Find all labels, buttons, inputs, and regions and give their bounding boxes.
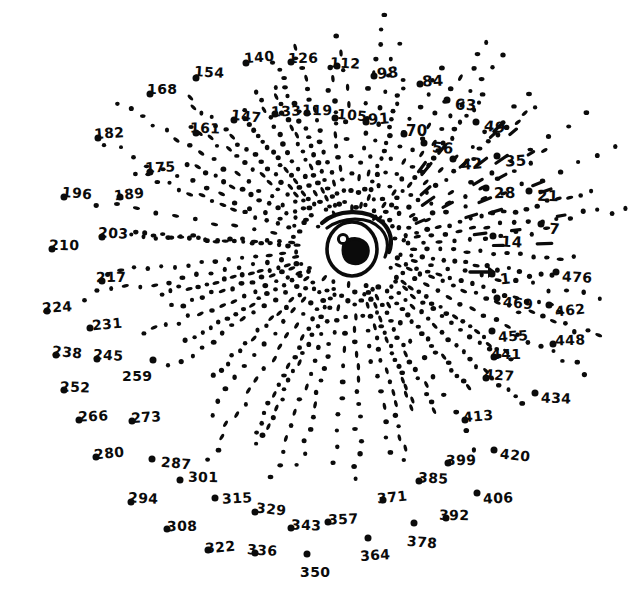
ray-dot — [205, 457, 210, 461]
numbered-dot — [546, 302, 553, 309]
ray-dot — [376, 347, 381, 352]
ray-dot — [313, 359, 318, 363]
ray-dot — [210, 199, 214, 203]
ray-dot — [312, 287, 316, 292]
ray-dot — [368, 314, 374, 319]
ray-dot — [190, 178, 195, 183]
ray-dot — [439, 127, 444, 131]
ray-dot — [240, 187, 246, 192]
numbered-dot — [365, 535, 372, 542]
ray-dot — [278, 163, 283, 167]
ray-dot — [578, 193, 583, 197]
ray-dot — [186, 264, 190, 268]
numbered-dot — [494, 295, 501, 302]
ray-dot — [440, 330, 445, 335]
ray-dot — [142, 234, 146, 239]
numbered-dot — [304, 551, 311, 558]
ray-dot — [316, 160, 322, 165]
ray-dot — [388, 379, 392, 384]
dot-number-label: 7 — [548, 222, 560, 238]
dot-number-label: 378 — [406, 534, 438, 551]
ray-dot — [375, 336, 379, 341]
ray-dot — [424, 227, 430, 232]
ray-dot — [251, 128, 256, 133]
ray-dot — [291, 369, 295, 374]
ray-dot — [324, 208, 329, 212]
ray-dot — [94, 203, 99, 208]
dot-number-label: 336 — [247, 542, 278, 558]
ray-dot — [582, 290, 586, 295]
ray-dot — [416, 376, 420, 380]
ray-dot — [433, 351, 438, 355]
ray-dot — [262, 283, 268, 288]
ray-dot — [474, 364, 478, 369]
ray-dot — [204, 186, 210, 191]
ray-dot — [498, 221, 502, 226]
numbered-dot — [526, 188, 533, 195]
dot-number-label: 448 — [555, 332, 586, 347]
ray-dot — [481, 285, 485, 289]
ray-dot — [241, 307, 246, 311]
dot-number-label: 14 — [501, 234, 523, 250]
ray-dot — [275, 205, 280, 210]
ray-dot — [394, 302, 399, 306]
ray-dot — [384, 141, 388, 145]
ray-dot — [483, 236, 488, 241]
ray-dot — [441, 393, 446, 397]
dot-number-label: 140 — [243, 49, 275, 66]
dot-number-label: 434 — [541, 390, 572, 405]
ray-dot — [183, 338, 188, 343]
ray-dot — [252, 227, 256, 231]
dot-number-label: 371 — [376, 488, 408, 505]
ray-dot — [244, 147, 249, 152]
ray-dot — [412, 175, 417, 180]
ray-dot — [335, 155, 341, 160]
ray-dot — [399, 176, 404, 181]
ray-dash — [512, 230, 521, 231]
ray-dot — [332, 293, 336, 298]
ray-dot — [394, 196, 399, 201]
ray-dot — [279, 269, 285, 274]
ray-dot — [168, 288, 172, 293]
ray-dot — [254, 89, 258, 94]
ray-dot — [190, 233, 196, 237]
ray-dot — [345, 298, 350, 303]
ray-dot — [422, 355, 427, 360]
ray-dot — [259, 275, 265, 280]
dot-number-label: 21 — [537, 189, 559, 204]
ray-dot — [443, 232, 448, 237]
ray-dot — [373, 57, 378, 62]
ray-dot — [129, 106, 134, 111]
ray-dot — [303, 286, 308, 290]
ray-dot — [340, 380, 346, 385]
ray-dot — [401, 343, 406, 347]
ray-dot — [364, 283, 369, 288]
ray-dot — [293, 199, 298, 203]
ray-dot — [203, 237, 207, 242]
ray-dot — [353, 205, 359, 210]
ray-dot — [438, 247, 442, 252]
ray-dot — [375, 172, 380, 177]
ray-dot — [192, 335, 196, 339]
ray-dot — [199, 110, 203, 115]
ray-dot — [342, 331, 348, 336]
ray-dot — [252, 353, 256, 357]
ray-dot — [224, 127, 229, 131]
dot-number-label: 441 — [491, 347, 521, 361]
ray-dot — [333, 34, 339, 39]
ray-dot — [259, 98, 264, 103]
ray-dot — [335, 444, 339, 449]
ray-dot — [301, 149, 306, 153]
ray-dot — [333, 330, 337, 335]
ray-dot — [416, 198, 421, 203]
numbered-dot — [411, 520, 418, 527]
ray-dot — [195, 285, 200, 289]
ray-dot — [256, 189, 261, 193]
ray-dot — [281, 76, 287, 80]
ray-dot — [180, 304, 186, 309]
ray-dot — [378, 42, 383, 47]
ray-dot — [397, 144, 402, 148]
ray-dot — [281, 202, 285, 207]
ray-dot — [262, 341, 267, 346]
ray-dot — [242, 364, 247, 368]
